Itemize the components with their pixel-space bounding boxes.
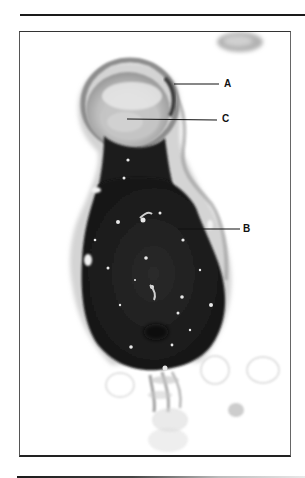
head-region bbox=[86, 72, 170, 148]
label-b: B bbox=[243, 224, 250, 234]
top-right-blob bbox=[217, 32, 263, 52]
tail-region bbox=[148, 372, 188, 452]
label-c: C bbox=[222, 114, 229, 124]
micrograph-image bbox=[0, 0, 305, 478]
label-a: A bbox=[224, 79, 231, 89]
